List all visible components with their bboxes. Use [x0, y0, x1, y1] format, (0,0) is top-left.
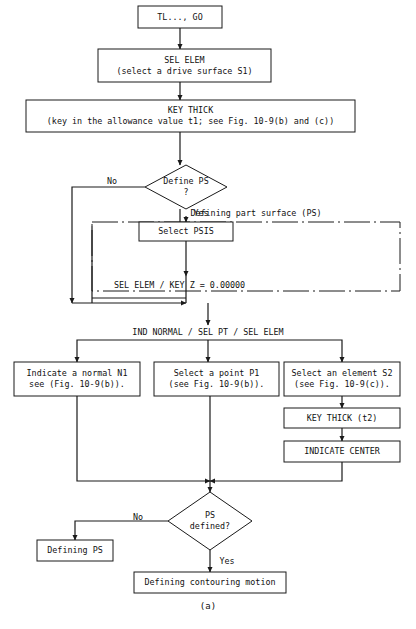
- connector-ind-normal-down: [77, 396, 210, 481]
- node-label-select_point-line-0: Select a point P1: [174, 368, 260, 378]
- node-label-defining_cm-line-0: Defining contouring motion: [144, 577, 275, 587]
- node-label-indicate_ctr-line-0: INDICATE CENTER: [304, 446, 381, 456]
- flowchart-canvas: TL..., GOSEL ELEM(select a drive surface…: [0, 0, 416, 629]
- edge-label-define_ps_no: No: [107, 176, 117, 186]
- connector-hdr-to-branch-right: [208, 340, 342, 362]
- node-label-sel_elem-line-1: (select a drive surface S1): [116, 66, 252, 76]
- node-label-key_thick_t2-line-0: KEY THICK (t2): [307, 413, 378, 423]
- label-sel_elem_key_z: SEL ELEM / KEY Z = 0.00000: [114, 280, 245, 290]
- node-label-ind_normal-line-0: Indicate a normal N1: [27, 368, 128, 378]
- node-label-ps_defined-line-1: defined?: [190, 521, 230, 531]
- node-label-select_psis-line-0: Select PSIS: [158, 226, 213, 236]
- node-label-start-line-0: TL..., GO: [157, 12, 202, 22]
- node-label-select_elem-line-0: Select an element S2: [292, 368, 393, 378]
- node-label-select_elem-line-1: (see Fig. 10-9(c)).: [294, 379, 390, 389]
- flowchart-figure: TL..., GOSEL ELEM(select a drive surface…: [0, 0, 416, 629]
- edge-label-define_ps_yes: Yes: [193, 208, 208, 218]
- node-label-select_point-line-1: (see Fig. 10-9(b)).: [169, 379, 265, 389]
- connector-ind-ctr-down: [210, 462, 342, 481]
- node-label-defining_ps-line-0: Defining PS: [47, 545, 102, 555]
- edge-label-ps_defined_yes: Yes: [219, 556, 234, 566]
- node-label-define_ps-line-1: ?: [183, 187, 188, 197]
- connector-ps-defined-no-left: [75, 521, 168, 540]
- node-label-key_thick-line-1: (key in the allowance value t1; see Fig.…: [47, 116, 334, 126]
- label-ind_normal_hdr: IND NORMAL / SEL PT / SEL ELEM: [132, 327, 283, 337]
- node-label-ind_normal-line-1: see (Fig. 10-9(b)).: [29, 379, 125, 389]
- node-label-key_thick-line-0: KEY THICK: [168, 105, 214, 115]
- figure-caption: (a): [200, 601, 216, 611]
- node-label-ps_defined-line-0: PS: [205, 510, 215, 520]
- group-label-ps_group: Defining part surface (PS): [190, 208, 321, 218]
- connector-hdr-to-branch-left: [77, 340, 208, 362]
- node-label-sel_elem-line-0: SEL ELEM: [164, 55, 204, 65]
- node-label-define_ps-line-0: Define PS: [163, 176, 208, 186]
- edge-label-ps_defined_no: No: [133, 512, 143, 522]
